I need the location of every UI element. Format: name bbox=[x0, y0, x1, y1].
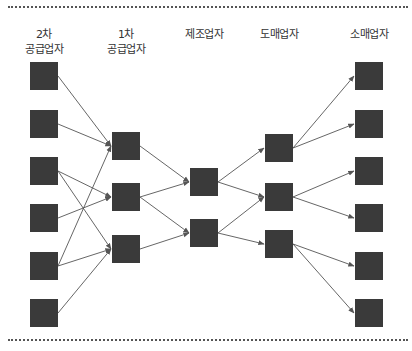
edge-arrow bbox=[58, 197, 111, 218]
edge-arrow bbox=[140, 197, 189, 233]
edge-arrow bbox=[293, 244, 354, 313]
tier1-node-2 bbox=[112, 183, 140, 211]
edge-arrow bbox=[293, 171, 354, 197]
edge-arrow bbox=[58, 146, 111, 266]
retailer-node-3 bbox=[355, 157, 383, 185]
tier2-node-6 bbox=[30, 299, 58, 327]
edge-arrow bbox=[218, 197, 264, 233]
edge-arrow bbox=[293, 76, 354, 148]
edge-arrow bbox=[218, 233, 264, 244]
edge-arrow bbox=[58, 171, 111, 197]
edge-arrow bbox=[293, 124, 354, 148]
edge-arrow bbox=[218, 148, 264, 182]
tier2-node-3 bbox=[30, 157, 58, 185]
edge-arrow bbox=[58, 249, 111, 266]
tier2-node-5 bbox=[30, 252, 58, 280]
edge-arrow bbox=[140, 182, 189, 197]
nodes bbox=[30, 62, 383, 327]
retailer-node-2 bbox=[355, 110, 383, 138]
retailer-node-1 bbox=[355, 62, 383, 90]
edge-arrow bbox=[218, 182, 264, 197]
tier1-node-1 bbox=[112, 132, 140, 160]
retailer-node-4 bbox=[355, 204, 383, 232]
tier2-node-1 bbox=[30, 62, 58, 90]
tier2-node-4 bbox=[30, 204, 58, 232]
wholesaler-node-1 bbox=[265, 134, 293, 162]
edge-arrow bbox=[58, 171, 111, 249]
tier2-node-2 bbox=[30, 110, 58, 138]
tier1-node-3 bbox=[112, 235, 140, 263]
supply-chain-diagram bbox=[0, 0, 412, 351]
retailer-node-6 bbox=[355, 299, 383, 327]
edge-arrow bbox=[293, 197, 354, 218]
wholesaler-node-2 bbox=[265, 183, 293, 211]
manufacturer-node-1 bbox=[190, 168, 218, 196]
edge-arrow bbox=[140, 233, 189, 249]
edge-arrow bbox=[58, 76, 111, 146]
edge-arrow bbox=[58, 249, 111, 313]
wholesaler-node-3 bbox=[265, 230, 293, 258]
retailer-node-5 bbox=[355, 252, 383, 280]
edge-arrow bbox=[140, 146, 189, 182]
manufacturer-node-2 bbox=[190, 219, 218, 247]
